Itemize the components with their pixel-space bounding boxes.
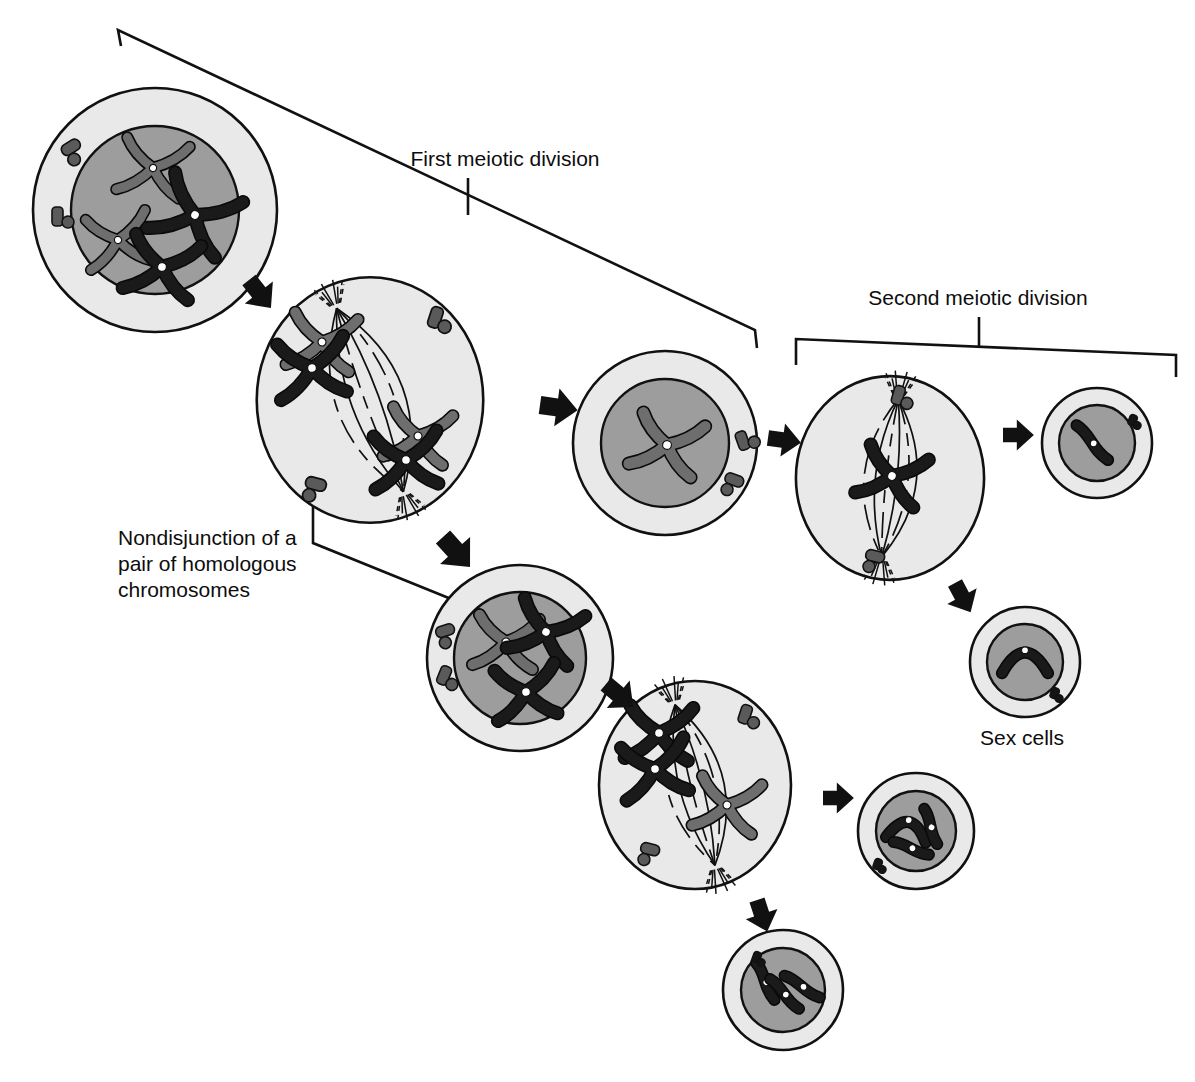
- nondisjunction-label-block: Nondisjunction of a pair of homologous c…: [118, 526, 297, 601]
- nondisjunction-label-line1: Nondisjunction of a: [118, 526, 297, 549]
- sex-cell-normal-lower: [970, 607, 1080, 717]
- second-division-bracket-path: [796, 339, 1176, 377]
- sex-cell-normal-upper: [1042, 388, 1152, 498]
- aneuploid-daughter-cell: [427, 565, 613, 751]
- sex-cells-label: Sex cells: [980, 726, 1064, 749]
- first-division-label: First meiotic division: [410, 147, 599, 170]
- nondisjunction-label-line3: chromosomes: [118, 578, 250, 601]
- arrow-metaphase-to-daughter: [537, 386, 580, 429]
- diagram-canvas: First meiotic division Second meiotic di…: [0, 0, 1195, 1082]
- arrow-metaphase-to-aneuploid: [428, 523, 485, 580]
- bracket-second-division: Second meiotic division: [796, 286, 1176, 377]
- normal-daughter-cell: [573, 351, 762, 535]
- metaphase-i-cell: [257, 270, 484, 530]
- arrow-metaphase-ii-to-gamete-1: [1003, 420, 1034, 451]
- arrow-metaphase-ii-to-gamete-2: [940, 575, 985, 620]
- parent-cell-prophase-i: [33, 88, 277, 332]
- meiosis-diagram-figure: First meiotic division Second meiotic di…: [0, 0, 1195, 1082]
- metaphase-ii-cell-normal: [796, 369, 984, 588]
- sex-cell-extra-chromosome: [858, 773, 974, 889]
- arrow-metaphase-ii-to-gamete-3: [823, 783, 854, 814]
- nondisjunction-label-line2: pair of homologous: [118, 552, 297, 575]
- sex-cell-missing-chromosome: [723, 930, 843, 1050]
- second-division-label: Second meiotic division: [868, 286, 1087, 309]
